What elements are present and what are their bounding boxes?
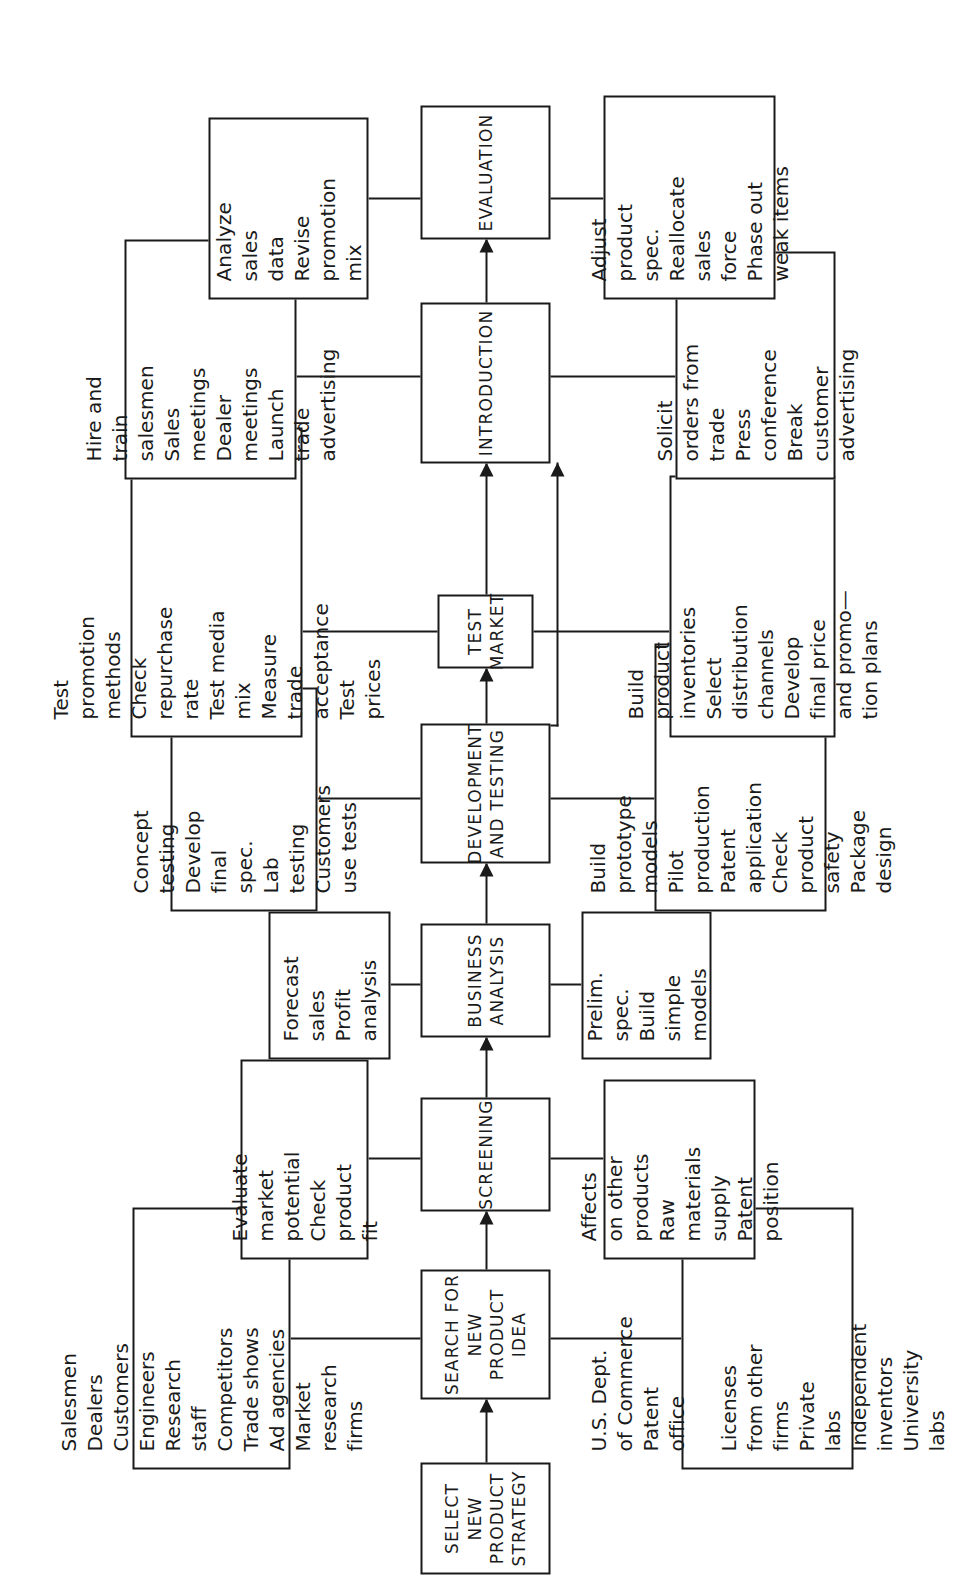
arrow-introduction-to-evaluation — [479, 238, 493, 252]
satellite-text: Adjust product spec. Reallocate sales fo… — [585, 166, 793, 297]
satellite-box-evaluation-adjustments[interactable]: Adjust product spec. Reallocate sales fo… — [603, 95, 775, 299]
stage-box-evaluation[interactable]: EVALUATION — [420, 105, 550, 239]
satellite-text: Build product inventories Select distrib… — [622, 590, 882, 735]
satellite-text: Forecast sales Profit analysis — [277, 956, 381, 1057]
satellite-text: Prelim. spec. Build simple models — [581, 968, 711, 1057]
satellite-text: Concept testing Develop final spec. Lab … — [127, 785, 361, 909]
arrow-search-to-screening — [479, 1210, 493, 1224]
satellite-text: Affects on other products Raw materials … — [575, 1146, 783, 1257]
bypass-line-development-to-introduction — [556, 462, 558, 726]
stage-label: TEST MARKET — [463, 592, 508, 670]
stage-label: INTRODUCTION — [474, 309, 496, 456]
connector-testmarket-to-introduction — [485, 462, 487, 596]
stage-label: SELECT NEW PRODUCT STRATEGY — [440, 1464, 530, 1572]
satellite-text: Build prototype models Pilot production … — [584, 782, 896, 909]
satellite-text: Salesmen Dealers Customers Engineers Res… — [55, 1327, 367, 1467]
stage-box-search-for-new-product-idea[interactable]: SEARCH FOR NEW PRODUCT IDEA — [420, 1269, 550, 1399]
stage-label: BUSINESS ANALYSIS — [463, 933, 508, 1028]
stage-label: SCREENING — [474, 1099, 496, 1209]
satellite-text: Analyze sales data Revise promotion mix — [210, 177, 366, 297]
satellite-box-test-market-distribution[interactable]: Build product inventories Select distrib… — [669, 475, 835, 737]
satellite-text: Test promotion methods Check repurchase … — [47, 603, 385, 735]
arrow-screening-to-business — [479, 1036, 493, 1050]
satellite-text: Hire and train salesmen Sales meetings D… — [80, 348, 340, 477]
stage-box-test-market[interactable]: TEST MARKET — [437, 594, 533, 668]
satellite-box-screening-constraints[interactable]: Affects on other products Raw materials … — [603, 1079, 755, 1259]
satellite-box-screening-criteria-market[interactable]: Evaluate market potential Check product … — [240, 1059, 368, 1259]
arrow-strategy-to-search — [479, 1398, 493, 1412]
flowchart-canvas: SELECT NEW PRODUCT STRATEGY SEARCH FOR N… — [0, 0, 973, 1589]
satellite-text: Evaluate market potential Check product … — [226, 1151, 382, 1257]
satellite-box-business-analysis-prelim[interactable]: Prelim. spec. Build simple models — [581, 911, 711, 1059]
rotated-diagram-stage: SELECT NEW PRODUCT STRATEGY SEARCH FOR N… — [0, 0, 973, 1589]
stage-box-screening[interactable]: SCREENING — [420, 1097, 550, 1211]
satellite-box-business-analysis-forecast[interactable]: Forecast sales Profit analysis — [268, 911, 390, 1059]
stage-box-introduction[interactable]: INTRODUCTION — [420, 302, 550, 463]
arrow-bypass-to-introduction — [550, 462, 564, 476]
arrow-business-to-development — [479, 862, 493, 876]
stage-label: SEARCH FOR NEW PRODUCT IDEA — [440, 1271, 530, 1397]
stage-box-development-and-testing[interactable]: DEVELOPMENT AND TESTING — [420, 723, 550, 863]
satellite-box-evaluation-analysis[interactable]: Analyze sales data Revise promotion mix — [208, 117, 368, 299]
arrow-testmarket-to-introduction — [479, 462, 493, 476]
satellite-text: U.S. Dept. of Commerce Patent office Lic… — [585, 1316, 949, 1467]
satellite-text: Solicit orders from trade Press conferen… — [651, 343, 859, 477]
stage-box-select-new-product-strategy[interactable]: SELECT NEW PRODUCT STRATEGY — [420, 1462, 550, 1574]
stage-label: EVALUATION — [474, 113, 496, 231]
stage-box-business-analysis[interactable]: BUSINESS ANALYSIS — [420, 923, 550, 1037]
stage-label: DEVELOPMENT AND TESTING — [463, 723, 508, 863]
